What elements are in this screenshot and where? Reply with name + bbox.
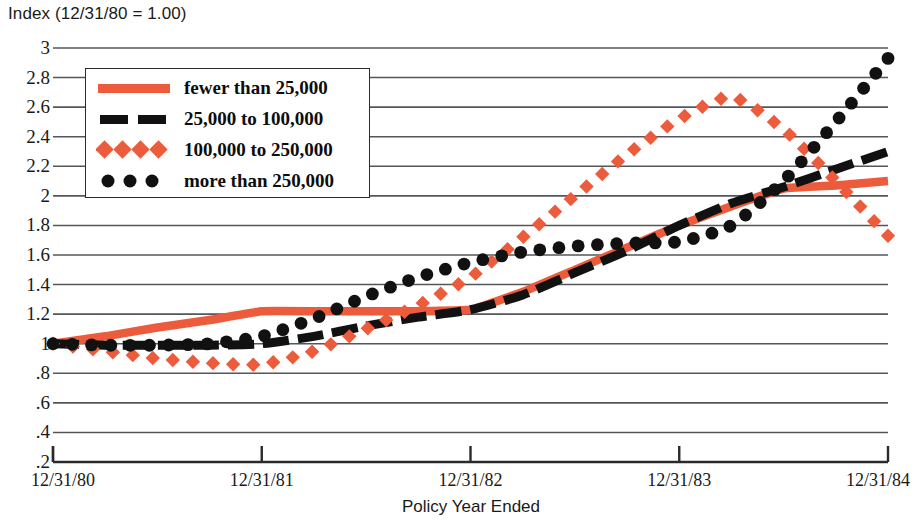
- marker-circle-30: [610, 237, 623, 250]
- marker-circle-22: [458, 258, 471, 271]
- marker-diamond-21: [451, 277, 465, 291]
- marker-circle-21: [439, 263, 452, 276]
- marker-circle-34: [687, 232, 700, 245]
- marker-diamond-36: [695, 100, 709, 114]
- x-axis-title: Policy Year Ended: [402, 497, 540, 517]
- marker-circle-37: [739, 209, 752, 222]
- marker-diamond-38: [733, 93, 747, 107]
- marker-diamond-40: [767, 115, 781, 129]
- marker-circle-43: [820, 126, 833, 139]
- marker-circle-38: [754, 196, 767, 209]
- marker-circle-28: [572, 239, 585, 252]
- marker-circle-18: [384, 281, 397, 294]
- marker-circle-27: [553, 241, 566, 254]
- marker-circle-44: [833, 112, 846, 125]
- marker-circle-15: [330, 303, 343, 316]
- marker-diamond-34: [660, 119, 674, 133]
- marker-circle-32: [649, 237, 662, 250]
- marker-diamond-41: [782, 127, 796, 141]
- marker-diamond-7: [186, 355, 200, 369]
- legend-label-3: more than 250,000: [184, 170, 334, 192]
- marker-circle-31: [630, 237, 643, 250]
- legend-item-fewer-than-25000[interactable]: fewer than 25,000: [96, 75, 328, 101]
- marker-circle-11: [258, 329, 271, 342]
- x-axis-tick-4: 12/31/84: [846, 470, 910, 491]
- marker-circle-8: [201, 337, 214, 350]
- legend-label-2: 100,000 to 250,000: [184, 139, 333, 161]
- marker-circle-29: [591, 238, 604, 251]
- marker-circle-1: [66, 338, 79, 351]
- marker-diamond-13: [305, 345, 319, 359]
- marker-circle-6: [162, 339, 175, 352]
- x-axis-tick-2: 12/31/82: [438, 470, 502, 491]
- marker-circle-39: [768, 183, 781, 196]
- x-axis-tick-3: 12/31/83: [647, 470, 711, 491]
- marker-circle-25: [514, 246, 527, 259]
- marker-circle-2: [85, 338, 98, 351]
- marker-diamond-29: [579, 179, 593, 193]
- marker-circle-35: [706, 227, 719, 240]
- marker-circle-26: [533, 243, 546, 256]
- legend-swatch-circle-marker-icon: [96, 170, 174, 192]
- marker-circle-47: [869, 67, 882, 80]
- marker-circle-10: [239, 333, 252, 346]
- marker-circle-12: [276, 323, 289, 336]
- marker-diamond-26: [532, 217, 546, 231]
- marker-circle-24: [495, 249, 508, 262]
- marker-circle-9: [220, 335, 233, 348]
- marker-circle-46: [857, 82, 870, 95]
- legend-item-100000-to-250000[interactable]: 100,000 to 250,000: [96, 137, 333, 163]
- marker-diamond-37: [714, 92, 728, 106]
- marker-circle-42: [808, 141, 821, 154]
- marker-diamond-28: [564, 192, 578, 206]
- marker-circle-13: [295, 317, 308, 330]
- marker-circle-3: [104, 339, 117, 352]
- marker-circle-40: [782, 170, 795, 183]
- marker-diamond-6: [166, 353, 180, 367]
- marker-diamond-5: [146, 351, 160, 365]
- legend-swatch-solid-line-icon: [96, 77, 174, 99]
- chart-legend: fewer than 25,000 25,000 to 100,000: [85, 68, 370, 198]
- marker-circle-45: [845, 97, 858, 110]
- marker-diamond-39: [750, 103, 764, 117]
- marker-diamond-46: [853, 199, 867, 213]
- x-axis-tick-0: 12/31/80: [31, 470, 95, 491]
- legend-swatch-diamond-marker-icon: [96, 139, 174, 161]
- marker-circle-4: [124, 339, 137, 352]
- legend-swatch-dashed-line-icon: [96, 108, 174, 130]
- marker-circle-5: [143, 339, 156, 352]
- marker-circle-7: [182, 338, 195, 351]
- marker-diamond-11: [266, 355, 280, 369]
- marker-diamond-25: [516, 230, 530, 244]
- marker-circle-19: [402, 274, 415, 287]
- marker-circle-17: [366, 288, 379, 301]
- marker-diamond-12: [286, 350, 300, 364]
- marker-diamond-48: [881, 229, 895, 243]
- marker-circle-23: [476, 253, 489, 266]
- marker-diamond-8: [206, 356, 220, 370]
- legend-label-1: 25,000 to 100,000: [184, 108, 323, 130]
- marker-diamond-30: [595, 167, 609, 181]
- marker-diamond-27: [548, 204, 562, 218]
- marker-diamond-10: [246, 358, 260, 372]
- marker-circle-33: [668, 236, 681, 249]
- marker-diamond-20: [433, 287, 447, 301]
- marker-diamond-33: [643, 131, 657, 145]
- legend-item-more-than-250000[interactable]: more than 250,000: [96, 168, 334, 194]
- marker-diamond-32: [627, 142, 641, 156]
- axes: [53, 446, 888, 462]
- marker-circle-48: [882, 52, 895, 65]
- legend-label-0: fewer than 25,000: [184, 77, 328, 99]
- marker-circle-36: [724, 220, 737, 233]
- marker-circle-20: [420, 268, 433, 281]
- marker-diamond-22: [468, 266, 482, 280]
- marker-circle-0: [47, 337, 60, 350]
- marker-diamond-35: [677, 109, 691, 123]
- marker-diamond-9: [226, 357, 240, 371]
- marker-circle-41: [795, 155, 808, 168]
- marker-diamond-43: [811, 156, 825, 170]
- marker-circle-16: [348, 295, 361, 308]
- legend-item-25000-to-100000[interactable]: 25,000 to 100,000: [96, 106, 323, 132]
- chart-container: Index (12/31/80 = 1.00) 32.82.62.42.221.…: [0, 0, 920, 525]
- marker-circle-14: [313, 310, 326, 323]
